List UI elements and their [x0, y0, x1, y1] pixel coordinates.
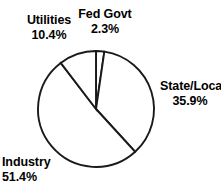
pie-label-industry-percent: 51.4% [2, 170, 74, 185]
pie-label-state-local: State/Local 35.9% [160, 79, 220, 108]
pie-label-utilities-name: Utilities [22, 13, 76, 28]
pie-label-utilities: Utilities 10.4% [22, 13, 76, 42]
pie-label-state-local-percent: 35.9% [160, 94, 220, 109]
pie-label-fed-govt: Fed Govt 2.3% [78, 7, 132, 36]
pie-slices [38, 51, 154, 167]
pie-label-fed-govt-name: Fed Govt [78, 7, 132, 22]
pie-label-state-local-name: State/Local [160, 79, 220, 94]
pie-label-industry: Industry 51.4% [2, 155, 74, 184]
pie-chart-figure: Utilities 10.4% Fed Govt 2.3% State/Loca… [0, 0, 221, 186]
pie-label-industry-name: Industry [2, 155, 74, 170]
pie-label-utilities-percent: 10.4% [22, 28, 76, 43]
pie-label-fed-govt-percent: 2.3% [78, 22, 132, 37]
